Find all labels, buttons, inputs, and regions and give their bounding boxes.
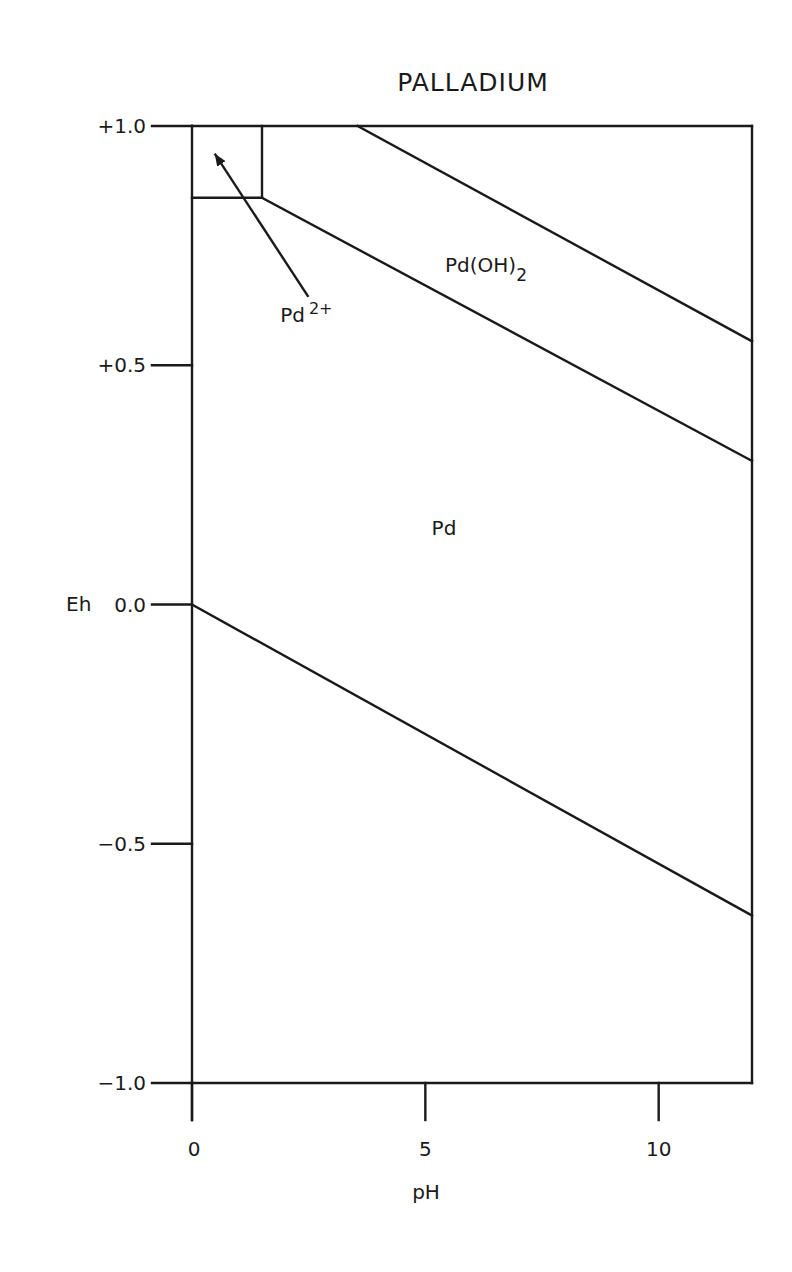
x-axis-label: pH bbox=[412, 1180, 440, 1204]
region-labels: Pd(OH)2Pd2+Pd bbox=[280, 253, 527, 540]
y-tick-label: −0.5 bbox=[97, 832, 146, 856]
y-tick-label: −1.0 bbox=[97, 1071, 146, 1095]
region-label: Pd bbox=[432, 516, 457, 540]
chart-title: PALLADIUM bbox=[397, 68, 549, 97]
region-label: Pd(OH)2 bbox=[445, 253, 527, 285]
x-tick-label: 0 bbox=[188, 1137, 201, 1161]
pourbaix-chart: PALLADIUM +1.0+0.50.0−0.5−1.0 0510 Eh pH… bbox=[0, 0, 792, 1272]
y-tick-label: 0.0 bbox=[114, 593, 146, 617]
boundary-line bbox=[358, 126, 752, 341]
boundary-line bbox=[192, 605, 752, 916]
boundary-line bbox=[262, 198, 752, 461]
y-axis-label: Eh bbox=[66, 592, 91, 616]
x-tick-label: 10 bbox=[646, 1137, 671, 1161]
x-tick-label: 5 bbox=[419, 1137, 432, 1161]
y-axis: +1.0+0.50.0−0.5−1.0 bbox=[97, 114, 192, 1095]
y-tick-label: +1.0 bbox=[97, 114, 146, 138]
y-tick-label: +0.5 bbox=[97, 353, 146, 377]
x-axis: 0510 bbox=[188, 1083, 672, 1161]
phase-boundaries bbox=[192, 126, 752, 916]
region-label: Pd2+ bbox=[280, 299, 332, 327]
